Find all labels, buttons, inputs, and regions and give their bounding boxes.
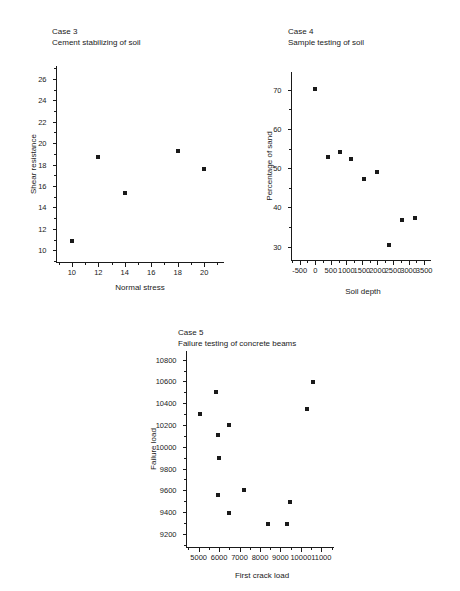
data-point bbox=[217, 456, 221, 460]
plot-area-case-5 bbox=[186, 351, 334, 547]
x-tick-label-case-5-1: 6000 bbox=[211, 553, 228, 562]
data-point bbox=[214, 390, 218, 394]
data-point bbox=[288, 500, 292, 504]
data-point bbox=[285, 522, 289, 526]
x-minor-tick-case-5-0 bbox=[209, 548, 210, 550]
data-point bbox=[216, 493, 220, 497]
data-point bbox=[216, 433, 220, 437]
y-tick-label-case-5-1: 9400 bbox=[160, 508, 177, 517]
y-tick-label-case-5-7: 10600 bbox=[156, 377, 177, 386]
x-tick-label-case-5-5: 10000 bbox=[290, 553, 311, 562]
x-tick-label-case-5-0: 5000 bbox=[190, 553, 207, 562]
data-point bbox=[305, 407, 309, 411]
x-tick-case-5-4 bbox=[280, 548, 281, 552]
data-point bbox=[242, 488, 246, 492]
x-tick-label-case-5-3: 8000 bbox=[252, 553, 269, 562]
x-tick-case-5-0 bbox=[199, 548, 200, 552]
y-tick-label-case-5-0: 9200 bbox=[160, 529, 177, 538]
y-tick-label-case-5-5: 10200 bbox=[156, 421, 177, 430]
y-tick-label-case-5-2: 9600 bbox=[160, 486, 177, 495]
y-axis-title-case-5: Failure load bbox=[149, 428, 158, 470]
x-tick-label-case-5-2: 7000 bbox=[231, 553, 248, 562]
data-point bbox=[227, 423, 231, 427]
x-tick-label-case-5-4: 9000 bbox=[272, 553, 289, 562]
x-tick-case-5-5 bbox=[301, 548, 302, 552]
y-tick-label-case-5-6: 10400 bbox=[156, 399, 177, 408]
x-tick-case-5-6 bbox=[321, 548, 322, 552]
x-minor-tick-case-5-end bbox=[332, 548, 333, 550]
x-tick-label-case-5-6: 11000 bbox=[311, 553, 331, 562]
data-point bbox=[266, 522, 270, 526]
data-point bbox=[311, 380, 315, 384]
x-tick-case-5-2 bbox=[240, 548, 241, 552]
y-tick-label-case-5-3: 9800 bbox=[160, 464, 177, 473]
y-tick-label-case-5-4: 10000 bbox=[156, 442, 177, 451]
x-minor-tick-case-5-1 bbox=[229, 548, 230, 550]
x-minor-tick-case-5-5 bbox=[311, 548, 312, 550]
data-point bbox=[227, 511, 231, 515]
x-minor-tick-case-5-start bbox=[188, 548, 189, 550]
x-tick-case-5-1 bbox=[219, 548, 220, 552]
x-minor-tick-case-5-4 bbox=[291, 548, 292, 550]
y-tick-label-case-5-8: 10800 bbox=[156, 355, 177, 364]
data-point bbox=[198, 412, 202, 416]
chart-title-line1-case-5: Case 5 bbox=[178, 327, 203, 338]
x-minor-tick-case-5-2 bbox=[250, 548, 251, 550]
chart-panel-case-5: Case 5Failure testing of concrete beams9… bbox=[0, 0, 460, 591]
x-tick-case-5-3 bbox=[260, 548, 261, 552]
x-axis-title-case-5: First crack load bbox=[235, 571, 289, 580]
chart-title-line2-case-5: Failure testing of concrete beams bbox=[178, 338, 296, 349]
x-minor-tick-case-5-3 bbox=[270, 548, 271, 550]
